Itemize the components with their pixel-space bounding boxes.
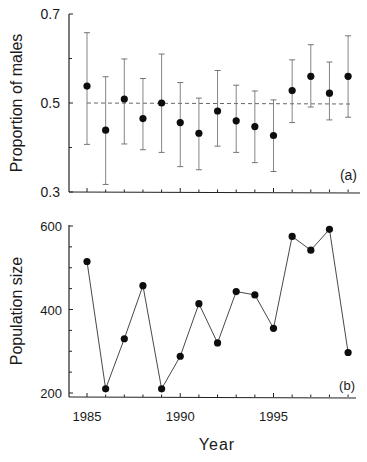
data-point xyxy=(345,73,352,80)
data-point xyxy=(83,258,90,265)
x-tick-label: 1995 xyxy=(259,409,288,424)
data-point xyxy=(195,130,202,137)
data-point xyxy=(307,247,314,254)
panel-a-x-ticks xyxy=(87,188,348,192)
panel-a-y-axis-label: Proportion of males xyxy=(8,34,25,173)
error-bar xyxy=(140,79,146,150)
data-point xyxy=(251,123,258,130)
y-tick-label: 0.7 xyxy=(41,6,61,22)
data-point xyxy=(121,95,128,102)
panel-a-proportion-of-males: 0.30.50.7 Proportion of males (a) xyxy=(8,6,360,200)
y-tick-label: 600 xyxy=(40,219,62,234)
data-point xyxy=(345,349,352,356)
data-point xyxy=(270,325,277,332)
panel-b-label: (b) xyxy=(339,378,355,393)
panel-a-y-ticks: 0.30.50.7 xyxy=(41,6,73,200)
data-point xyxy=(102,127,109,134)
data-point xyxy=(307,73,314,80)
y-tick-label: 200 xyxy=(40,386,62,401)
data-point xyxy=(214,107,221,114)
chart-svg: 0.30.50.7 Proportion of males (a) 200400… xyxy=(0,0,367,462)
data-point xyxy=(233,117,240,124)
data-point xyxy=(251,291,258,298)
data-point xyxy=(139,115,146,122)
x-tick-label: 1985 xyxy=(73,409,102,424)
data-point xyxy=(158,385,165,392)
panel-b-data-points xyxy=(83,226,351,393)
panel-b-x-axis xyxy=(69,397,356,398)
data-point xyxy=(83,82,90,89)
data-point xyxy=(289,233,296,240)
data-point xyxy=(102,385,109,392)
data-point xyxy=(139,282,146,289)
data-point xyxy=(121,335,128,342)
data-point xyxy=(270,132,277,139)
data-point xyxy=(326,90,333,97)
y-tick-label: 0.5 xyxy=(41,95,61,111)
panel-a-label: (a) xyxy=(340,167,357,183)
panel-b-y-ticks: 200400600 xyxy=(40,219,73,401)
data-point xyxy=(326,226,333,233)
panel-b-y-axis-label: Population size xyxy=(8,257,25,366)
data-point xyxy=(177,353,184,360)
data-point xyxy=(158,99,165,106)
x-axis-label-year: Year xyxy=(199,436,235,453)
panel-b-population-size: 200400600 198519901995 Population size (… xyxy=(8,219,356,424)
x-tick-label: 1990 xyxy=(166,409,195,424)
figure: 0.30.50.7 Proportion of males (a) 200400… xyxy=(0,0,367,462)
y-tick-label: 400 xyxy=(40,303,62,318)
panel-a-x-axis xyxy=(69,192,360,193)
data-point xyxy=(289,87,296,94)
data-point xyxy=(233,288,240,295)
data-point xyxy=(177,119,184,126)
data-point xyxy=(214,339,221,346)
y-tick-label: 0.3 xyxy=(41,184,61,200)
data-point xyxy=(195,300,202,307)
